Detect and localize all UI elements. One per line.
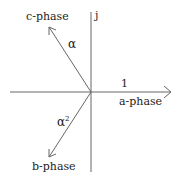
phasor-lines [0, 0, 179, 182]
j-axis-label: j [95, 10, 98, 21]
c-phase-operator: α [68, 38, 76, 50]
c-phase-label: c-phase [26, 11, 69, 22]
a-phase-operator: 1 [121, 78, 128, 89]
b-phase-label: b-phase [32, 161, 76, 172]
a-phase-label: a-phase [119, 96, 162, 107]
b-phase-operator-base: α [57, 115, 65, 129]
b-phase-phasor [49, 92, 91, 157]
phasor-diagram: j c-phase α 1 a-phase α2 b-phase [0, 0, 179, 182]
b-phase-operator: α2 [57, 116, 70, 128]
b-phase-operator-exponent: 2 [65, 115, 69, 123]
